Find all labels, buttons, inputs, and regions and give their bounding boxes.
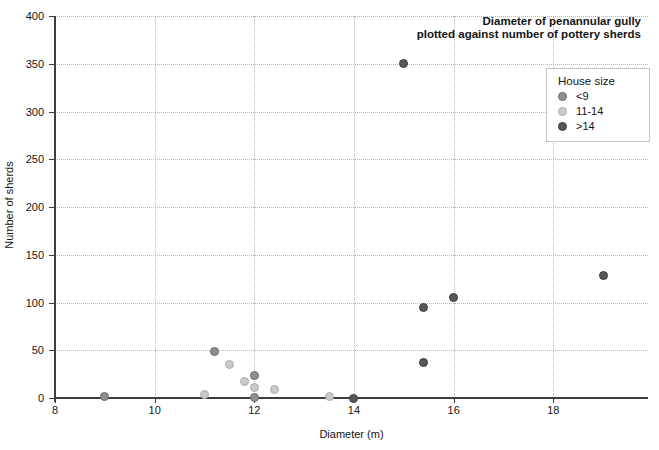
- gridline-horizontal: [55, 159, 648, 160]
- legend-item: <9: [558, 90, 645, 103]
- gridline-vertical: [155, 16, 156, 398]
- x-tick-label: 18: [538, 404, 568, 416]
- chart-title: Diameter of penannular gully plotted aga…: [417, 15, 641, 41]
- data-point: [250, 371, 259, 380]
- legend-item: >14: [558, 120, 645, 133]
- data-point: [210, 347, 219, 356]
- chart-title-line2: plotted against number of pottery sherds: [417, 28, 641, 41]
- gridline-horizontal: [55, 255, 648, 256]
- y-tick-label: 0: [14, 392, 44, 404]
- legend-item-label: <9: [576, 90, 589, 103]
- data-point: [200, 390, 209, 399]
- legend-dot-icon: [558, 107, 567, 116]
- x-tick-label: 12: [239, 404, 269, 416]
- data-point: [325, 392, 334, 401]
- legend-item: 11-14: [558, 105, 645, 118]
- y-tick: [49, 255, 54, 256]
- chart-title-line1: Diameter of penannular gully: [417, 15, 641, 28]
- y-tick-label: 100: [14, 297, 44, 309]
- data-point: [270, 385, 279, 394]
- y-tick: [49, 112, 54, 113]
- gridline-horizontal: [55, 350, 648, 351]
- data-point: [449, 293, 458, 302]
- y-tick-label: 350: [14, 58, 44, 70]
- y-tick: [49, 350, 54, 351]
- legend-dot-icon: [558, 122, 567, 131]
- y-tick: [49, 64, 54, 65]
- x-tick: [454, 398, 455, 403]
- data-point: [599, 271, 608, 280]
- x-tick: [155, 398, 156, 403]
- y-tick: [49, 207, 54, 208]
- gridline-vertical: [454, 16, 455, 398]
- legend-item-label: 11-14: [576, 105, 603, 118]
- legend-title: House size: [558, 75, 645, 87]
- y-tick: [49, 159, 54, 160]
- y-tick: [49, 398, 54, 399]
- x-tick: [55, 398, 56, 403]
- legend: House size <911-14>14: [546, 68, 650, 142]
- data-point: [419, 303, 428, 312]
- data-point: [100, 392, 109, 401]
- data-point: [240, 377, 249, 386]
- y-tick-label: 400: [14, 10, 44, 22]
- data-point: [419, 358, 428, 367]
- x-tick-label: 10: [140, 404, 170, 416]
- y-tick-label: 150: [14, 249, 44, 261]
- y-tick: [49, 16, 54, 17]
- y-tick-label: 300: [14, 106, 44, 118]
- x-axis-label: Diameter (m): [55, 428, 648, 440]
- data-point: [250, 393, 259, 402]
- scatter-chart: Diameter of penannular gully plotted aga…: [0, 0, 659, 450]
- x-tick-label: 8: [40, 404, 70, 416]
- data-point: [225, 360, 234, 369]
- data-point: [399, 59, 408, 68]
- gridline-horizontal: [55, 64, 648, 65]
- y-tick-label: 50: [14, 344, 44, 356]
- data-point: [250, 383, 259, 392]
- legend-dot-icon: [558, 92, 567, 101]
- legend-item-label: >14: [576, 120, 595, 133]
- gridline-vertical: [354, 16, 355, 398]
- gridline-vertical: [254, 16, 255, 398]
- legend-items: <911-14>14: [558, 90, 645, 133]
- y-axis-line: [54, 16, 56, 402]
- y-tick: [49, 303, 54, 304]
- data-point: [349, 394, 358, 403]
- gridline-horizontal: [55, 303, 648, 304]
- y-tick-label: 200: [14, 201, 44, 213]
- gridline-horizontal: [55, 207, 648, 208]
- x-tick-label: 14: [339, 404, 369, 416]
- x-tick-label: 16: [439, 404, 469, 416]
- x-tick: [553, 398, 554, 403]
- y-tick-label: 250: [14, 153, 44, 165]
